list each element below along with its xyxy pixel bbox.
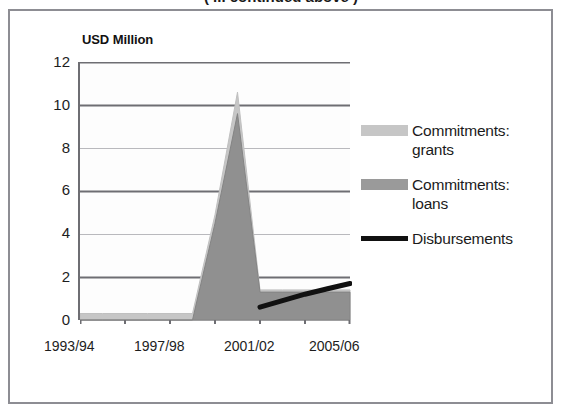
legend-line-icon xyxy=(361,233,408,244)
x-tick-2005-06: 2005/06 xyxy=(309,338,360,354)
y-tick-4: 4 xyxy=(26,224,70,241)
x-tick-1993-94: 1993/94 xyxy=(44,338,95,354)
y-tick-2: 2 xyxy=(26,268,70,285)
title-clip: ( ... continued above ) xyxy=(0,0,562,9)
y-tick-0: 0 xyxy=(26,311,70,328)
y-tick-12: 12 xyxy=(26,53,70,70)
legend-item-commitments-grants: Commitments: grants xyxy=(361,121,541,159)
legend: Commitments: grants Commitments: loans D… xyxy=(361,121,541,264)
x-tick-1997-98: 1997/98 xyxy=(134,338,185,354)
x-axis-ticks xyxy=(81,320,350,324)
y-axis-unit-label: USD Million xyxy=(82,32,153,47)
y-tick-6: 6 xyxy=(26,181,70,198)
legend-item-disbursements: Disbursements xyxy=(361,229,541,248)
x-tick-2001-02: 2001/02 xyxy=(224,338,275,354)
y-tick-10: 10 xyxy=(26,96,70,113)
legend-label-commitments-grants: Commitments: grants xyxy=(412,121,541,159)
legend-label-commitments-loans: Commitments: loans xyxy=(412,175,541,213)
y-tick-8: 8 xyxy=(26,139,70,156)
legend-swatch-icon xyxy=(361,125,408,136)
legend-swatch-icon xyxy=(361,179,408,190)
chart-plot-svg xyxy=(80,62,352,324)
chart-screenshot: { "title": "( ... continued above )", "a… xyxy=(0,0,562,417)
plot-area xyxy=(78,62,350,320)
legend-item-commitments-loans: Commitments: loans xyxy=(361,175,541,213)
page-title: ( ... continued above ) xyxy=(0,0,562,5)
legend-label-disbursements: Disbursements xyxy=(412,229,541,248)
